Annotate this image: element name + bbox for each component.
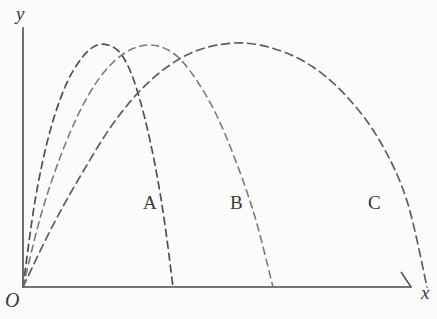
trajectory-curve-c <box>23 43 427 287</box>
axes-group <box>23 28 411 287</box>
curve-label-a: A <box>143 193 157 212</box>
origin-label: O <box>5 290 19 310</box>
curve-label-c: C <box>368 193 381 212</box>
projectile-trajectory-figure: y x O A B C <box>0 0 437 319</box>
y-axis-label: y <box>16 4 24 23</box>
x-axis-label: x <box>421 283 429 302</box>
curve-label-b: B <box>230 193 243 212</box>
plot-canvas <box>0 0 437 319</box>
trajectory-curve-b <box>23 45 273 287</box>
curves-group <box>23 43 427 287</box>
x-axis-arrow-icon <box>401 272 411 287</box>
